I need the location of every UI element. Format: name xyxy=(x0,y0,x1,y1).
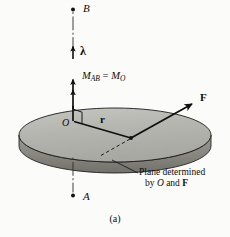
point-b-label: B xyxy=(83,3,90,14)
origin-o-label: O xyxy=(62,118,69,128)
figure-drawing xyxy=(0,0,230,237)
plane-note-by-text: by xyxy=(145,178,157,188)
moment-M-symbol-2: M xyxy=(111,70,120,81)
point-a-marker xyxy=(71,194,75,198)
plane-note-O-symbol: O xyxy=(157,178,164,188)
figure-container: B A λ MAB = MO O r F Plane determined by… xyxy=(0,0,230,237)
figure-caption: (a) xyxy=(0,214,230,224)
plane-note-label: Plane determined by O and F xyxy=(139,168,205,188)
plane-note-line-1: Plane determined xyxy=(139,167,205,177)
moment-AB-subscript: AB xyxy=(91,74,100,83)
plane-note-F-symbol: F xyxy=(182,178,188,188)
disk-top-face xyxy=(19,108,211,162)
point-a-label: A xyxy=(83,191,90,202)
plane-note-and-text: and xyxy=(164,178,182,188)
moment-M-symbol: M xyxy=(82,70,91,81)
force-vector-f-label: F xyxy=(200,92,207,103)
moment-O-subscript: O xyxy=(120,74,125,83)
point-b-marker xyxy=(71,8,75,12)
moment-equals-sign: = xyxy=(100,70,111,81)
plane-note-line-2: by O and F xyxy=(139,179,205,189)
lambda-unit-vector-label: λ xyxy=(80,45,86,57)
moment-equation-label: MAB = MO xyxy=(82,71,125,82)
position-vector-r-label: r xyxy=(100,114,105,125)
